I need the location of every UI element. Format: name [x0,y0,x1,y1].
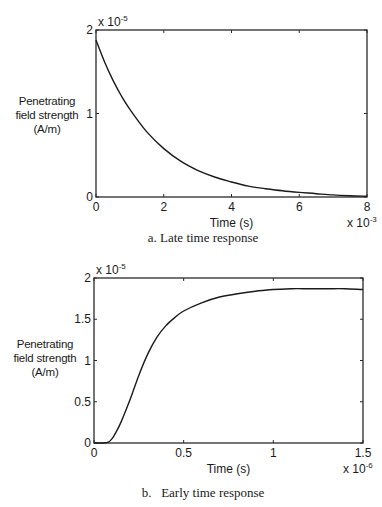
figure-caption: b. Early time response [12,485,382,501]
y-axis-label-line: Penetrating [2,337,88,351]
x-tick-label: 1 [270,446,277,460]
figure-early-time: 00.511.500.511.52x 10-5x 10-6Time (s) Pe… [0,0,382,507]
y-tick-label: 1.5 [74,312,91,326]
y-axis-label-line: (A/m) [2,365,88,379]
x-exponent-label: x 10-6 [343,461,373,476]
y-tick-label: 0.5 [74,395,91,409]
y-tick-label: 2 [84,271,91,285]
x-tick-label: 0 [91,446,98,460]
data-line [94,289,363,443]
y-axis-label: Penetrating field strength (A/m) [2,337,88,379]
y-exponent-label: x 10-5 [96,262,126,277]
plot-frame [94,278,363,443]
y-axis-label-line: field strength [2,351,88,365]
chart-early-time: 00.511.500.511.52x 10-5x 10-6Time (s) [0,0,382,507]
x-tick-label: 1.5 [355,446,372,460]
x-axis-label: Time (s) [207,462,251,476]
y-tick-label: 0 [84,436,91,450]
x-tick-label: 0.5 [175,446,192,460]
